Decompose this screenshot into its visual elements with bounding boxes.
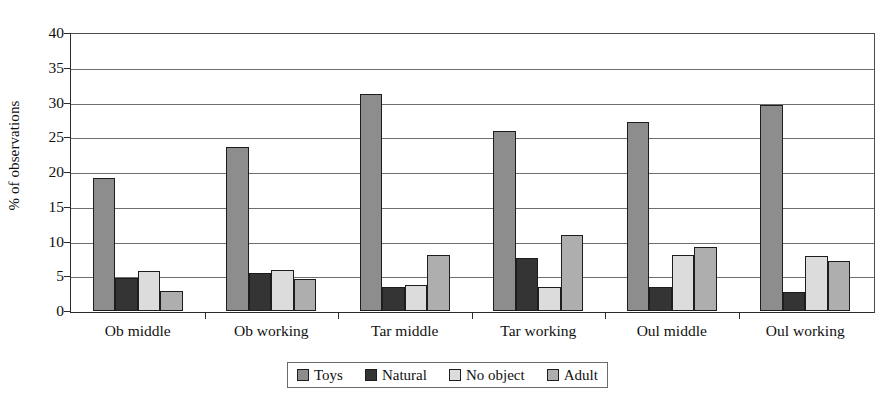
bar-toys-tar-middle	[360, 94, 383, 311]
legend-swatch-icon	[365, 369, 377, 381]
bar-adult-ob-middle	[160, 291, 183, 311]
y-axis-tick-label: 30	[30, 95, 64, 111]
bar-adult-oul-middle	[694, 247, 717, 311]
x-axis-tick-mark	[338, 312, 339, 319]
y-axis-tick-label: 40	[30, 25, 64, 41]
y-axis-tick-label: 15	[30, 199, 64, 215]
bar-no-object-ob-working	[271, 270, 294, 311]
y-axis-tick-mark	[64, 276, 70, 277]
bar-toys-oul-middle	[627, 122, 650, 311]
legend-item-adult: Adult	[547, 367, 598, 384]
legend-label: Natural	[382, 367, 427, 384]
bar-no-object-tar-working	[538, 287, 561, 311]
y-axis-tick-mark	[64, 172, 70, 173]
x-axis-category-label: Oul working	[739, 322, 873, 340]
chart-figure: % of observations 0510152025303540 Ob mi…	[0, 0, 894, 404]
bar-adult-tar-middle	[427, 255, 450, 311]
legend-item-no-object: No object	[449, 367, 525, 384]
bar-adult-tar-working	[561, 235, 584, 311]
x-axis-tick-mark	[472, 312, 473, 319]
legend-item-toys: Toys	[297, 367, 343, 384]
bar-toys-tar-working	[493, 131, 516, 311]
legend-swatch-icon	[449, 369, 461, 381]
bar-natural-ob-working	[249, 273, 272, 311]
bar-natural-oul-middle	[649, 287, 672, 311]
bar-no-object-oul-working	[805, 256, 828, 311]
y-axis-tick-mark	[64, 242, 70, 243]
chart-legend: ToysNaturalNo objectAdult	[287, 362, 608, 388]
legend-swatch-icon	[297, 369, 309, 381]
y-axis-tick-mark	[64, 33, 70, 34]
bar-natural-oul-working	[783, 292, 806, 311]
bar-no-object-tar-middle	[405, 285, 428, 311]
y-axis-tick-mark	[64, 137, 70, 138]
legend-label: Toys	[314, 367, 343, 384]
bar-toys-ob-middle	[93, 178, 116, 311]
y-axis-tick-labels: 0510152025303540	[26, 33, 64, 311]
bar-natural-ob-middle	[115, 278, 138, 311]
y-axis-tick-label: 20	[30, 164, 64, 180]
y-axis-tick-label: 25	[30, 130, 64, 146]
y-axis-title-text: % of observations	[6, 100, 23, 210]
bars-layer	[71, 33, 872, 311]
x-axis-tick-mark	[205, 312, 206, 319]
x-axis-tick-mark	[739, 312, 740, 319]
y-axis-tick-mark	[64, 103, 70, 104]
legend-swatch-icon	[547, 369, 559, 381]
y-axis-title: % of observations	[0, 0, 28, 311]
bar-no-object-oul-middle	[672, 255, 695, 311]
legend-label: Adult	[564, 367, 598, 384]
x-axis-category-label: Tar working	[472, 322, 606, 340]
x-axis-category-label: Ob working	[205, 322, 339, 340]
y-axis-tick-mark	[64, 207, 70, 208]
x-axis-category-label: Tar middle	[338, 322, 472, 340]
y-axis-tick-label: 5	[30, 269, 64, 285]
legend-item-natural: Natural	[365, 367, 427, 384]
y-axis-tick-label: 35	[30, 60, 64, 76]
x-axis-tick-mark	[605, 312, 606, 319]
y-axis-tick-mark	[64, 311, 70, 312]
y-axis-tick-label: 0	[30, 303, 64, 319]
bar-adult-ob-working	[294, 279, 317, 311]
bar-natural-tar-middle	[382, 287, 405, 311]
y-axis-tick-label: 10	[30, 234, 64, 250]
y-axis-tick-mark	[64, 68, 70, 69]
bar-no-object-ob-middle	[138, 271, 161, 311]
x-axis-category-label: Ob middle	[71, 322, 205, 340]
bar-toys-oul-working	[760, 105, 783, 311]
bar-adult-oul-working	[828, 261, 851, 311]
bar-toys-ob-working	[226, 147, 249, 311]
bar-natural-tar-working	[516, 258, 539, 312]
x-axis-category-label: Oul middle	[605, 322, 739, 340]
legend-label: No object	[466, 367, 525, 384]
